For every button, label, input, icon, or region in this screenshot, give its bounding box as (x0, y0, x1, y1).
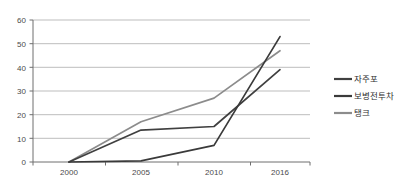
y-axis-labels: 60 50 40 30 20 10 0 (17, 16, 26, 167)
legend-label-bobyeongjeontucha: 보병전투차 (354, 91, 394, 101)
x-tick-label-2000: 2000 (60, 168, 78, 177)
series-line-bobyeong (69, 37, 280, 162)
y-tick-label-0: 0 (22, 158, 27, 167)
chart-legend: 자주포 보병전투차 탱크 (334, 74, 394, 118)
x-axis-labels: 2000 2005 2010 2016 (60, 168, 289, 177)
series-line-jajupo (69, 70, 280, 162)
y-tick-label-40: 40 (17, 64, 26, 73)
y-tick-label-60: 60 (17, 16, 26, 25)
y-tick-marks (30, 20, 34, 162)
legend-item-0[interactable]: 자주포 (334, 74, 378, 84)
legend-item-2[interactable]: 탱크 (334, 108, 370, 118)
y-tick-label-10: 10 (17, 135, 26, 144)
legend-label-jajupo: 자주포 (354, 74, 378, 84)
legend-item-1[interactable]: 보병전투차 (334, 91, 394, 101)
x-tick-label-2005: 2005 (132, 168, 150, 177)
line-chart-plot: 60 50 40 30 20 10 0 2000 2005 2010 2016 … (0, 0, 396, 192)
legend-label-tank: 탱크 (354, 108, 370, 118)
chart-container: 60 50 40 30 20 10 0 2000 2005 2010 2016 … (0, 0, 396, 192)
data-series-group (69, 37, 280, 162)
x-tick-label-2010: 2010 (205, 168, 223, 177)
x-tick-label-2016: 2016 (271, 168, 289, 177)
y-tick-label-50: 50 (17, 40, 26, 49)
y-tick-label-20: 20 (17, 111, 26, 120)
y-tick-label-30: 30 (17, 87, 26, 96)
